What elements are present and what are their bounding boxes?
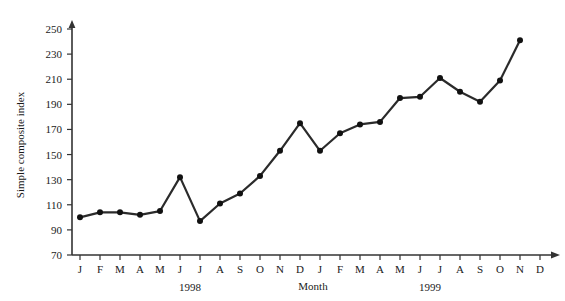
chart-container: Simple composite index 70901101301501701… — [0, 0, 565, 301]
x-tick-label: D — [536, 263, 544, 275]
data-point — [337, 130, 343, 136]
x-tick-label: S — [477, 263, 483, 275]
y-tick-label: 210 — [46, 73, 63, 85]
data-point — [77, 214, 83, 220]
y-tick-label: 190 — [46, 98, 63, 110]
data-point — [397, 95, 403, 101]
data-point — [437, 75, 443, 81]
y-tick-label: 110 — [46, 199, 63, 211]
data-point — [257, 173, 263, 179]
data-point — [217, 201, 223, 207]
x-tick-label: N — [516, 263, 524, 275]
data-point — [417, 94, 423, 100]
y-axis-title-text: Simple composite index — [14, 91, 26, 198]
x-tick-label: O — [256, 263, 264, 275]
y-axis-arrow-icon — [69, 20, 76, 28]
x-tick-label: J — [318, 263, 323, 275]
x-tick-label: A — [136, 263, 144, 275]
y-axis-ticks: 7090110130150170190210230250 — [46, 23, 73, 261]
data-point — [197, 218, 203, 224]
data-point — [317, 148, 323, 154]
x-axis-title-text: Month — [298, 280, 328, 292]
y-tick-label: 250 — [46, 23, 63, 35]
data-point — [97, 209, 103, 215]
x-tick-label: J — [438, 263, 443, 275]
data-point — [377, 119, 383, 125]
data-point — [497, 77, 503, 83]
data-point — [457, 89, 463, 95]
x-tick-label: A — [376, 263, 384, 275]
x-axis-year-label: 1999 — [419, 281, 442, 293]
x-tick-label: A — [456, 263, 464, 275]
data-point — [117, 209, 123, 215]
x-tick-label: J — [178, 263, 183, 275]
data-point — [517, 37, 523, 43]
series-points — [77, 37, 523, 224]
data-point — [137, 212, 143, 218]
x-tick-label: J — [198, 263, 203, 275]
y-axis-title: Simple composite index — [14, 91, 26, 198]
y-tick-label: 170 — [46, 123, 63, 135]
x-axis-arrow-icon — [551, 251, 560, 258]
x-tick-label: J — [418, 263, 423, 275]
x-tick-label: O — [496, 263, 504, 275]
y-tick-label: 130 — [46, 174, 63, 186]
x-tick-label: M — [155, 263, 165, 275]
x-tick-label: M — [395, 263, 405, 275]
line-chart: Simple composite index 70901101301501701… — [0, 0, 565, 301]
x-axis-year-label: 1998 — [179, 281, 202, 293]
data-point — [357, 121, 363, 127]
data-point — [297, 120, 303, 126]
data-point — [477, 99, 483, 105]
x-tick-label: M — [115, 263, 125, 275]
x-tick-label: A — [216, 263, 224, 275]
x-axis-tick-labels: JFMAMJJASONDJFMAMJJASOND — [78, 263, 544, 275]
x-tick-label: S — [237, 263, 243, 275]
data-point — [277, 148, 283, 154]
x-tick-label: F — [97, 263, 103, 275]
x-tick-label: J — [78, 263, 83, 275]
x-tick-label: D — [296, 263, 304, 275]
y-tick-label: 230 — [46, 48, 63, 60]
y-tick-label: 90 — [51, 224, 63, 236]
data-point — [157, 208, 163, 214]
series-line — [80, 40, 520, 221]
x-tick-label: N — [276, 263, 284, 275]
y-tick-label: 70 — [51, 249, 63, 261]
data-point — [237, 190, 243, 196]
x-tick-label: F — [337, 263, 343, 275]
y-tick-label: 150 — [46, 149, 63, 161]
axis-lines — [69, 20, 560, 259]
data-point — [177, 174, 183, 180]
x-tick-label: M — [355, 263, 365, 275]
